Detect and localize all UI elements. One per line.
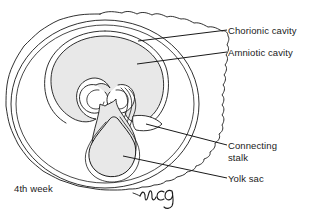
label-connecting-stalk-line1: Connecting [228, 140, 277, 151]
label-amniotic-cavity: Amniotic cavity [228, 47, 293, 59]
artist-signature [133, 190, 173, 208]
label-developmental-stage: 4th week [14, 183, 53, 195]
label-chorionic-cavity: Chorionic cavity [228, 25, 297, 37]
label-yolk-sac: Yolk sac [228, 173, 264, 185]
label-connecting-stalk-line2: stalk [228, 152, 277, 164]
label-connecting-stalk: Connecting stalk [228, 140, 277, 163]
embryology-figure: Chorionic cavity Amniotic cavity Connect… [0, 0, 323, 223]
